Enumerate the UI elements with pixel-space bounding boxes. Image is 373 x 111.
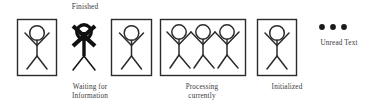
label-initialized: Initialized [249, 83, 325, 92]
figure-leg-left [218, 55, 227, 68]
stick-figure-bold-crossed [73, 25, 95, 70]
node-processing [161, 20, 246, 76]
label-processing-currently: Processing currently [163, 83, 241, 101]
figure-leg-left [267, 56, 277, 69]
figure-arm-left [120, 33, 132, 46]
figure-head [172, 25, 186, 39]
stick-figure [167, 25, 191, 68]
figure-leg-right [277, 56, 287, 69]
figure-leg-right [132, 56, 142, 69]
figure-leg-right [37, 56, 47, 69]
figure-leg-left [194, 55, 203, 68]
figure-head [196, 25, 210, 39]
figure-leg-right [227, 55, 238, 68]
figure-leg-right [84, 56, 95, 70]
label-unread-text: Unread Text [307, 39, 371, 48]
figure-head [124, 26, 139, 41]
figure-head [220, 25, 234, 39]
figure-leg-left [122, 56, 132, 69]
label-waiting-for-information: Waiting for Information [50, 83, 130, 101]
figure-leg-left [73, 56, 84, 70]
node-unlabeled-boxed [112, 20, 152, 76]
stick-figure-diagram: Finished Waiting for Information Process… [0, 0, 373, 111]
figure-arm-right [37, 33, 49, 46]
dot-icon [319, 24, 325, 30]
stick-figure [25, 26, 49, 69]
figure-arm-right [277, 33, 289, 46]
node-initialized [258, 20, 297, 76]
figure-arm-left [265, 33, 277, 46]
stick-figure [215, 25, 239, 68]
stick-figure [265, 26, 289, 69]
figure-leg-right [179, 55, 190, 68]
figure-head [270, 26, 285, 41]
figure-leg-right [203, 55, 214, 68]
dot-icon [330, 24, 336, 30]
figure-arm-right [132, 33, 144, 46]
stick-figure [120, 26, 144, 69]
figure-leg-left [170, 55, 179, 68]
node-waiting [73, 25, 95, 70]
figure-arm-left [25, 33, 37, 46]
node-finished [18, 20, 57, 76]
dot-icon [341, 24, 347, 30]
figure-leg-left [27, 56, 37, 69]
figure-head [30, 26, 45, 41]
stick-figure-group [167, 25, 239, 68]
stick-figure [191, 25, 215, 68]
unread-text-dots [319, 24, 347, 30]
label-finished: Finished [52, 2, 118, 11]
